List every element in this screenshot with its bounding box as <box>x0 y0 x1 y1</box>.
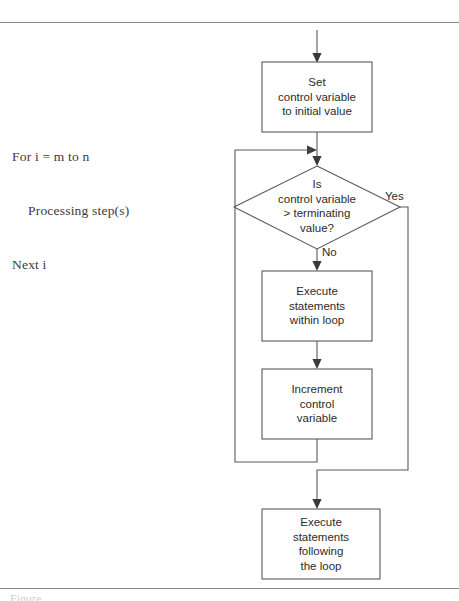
edge-decision-no <box>312 249 321 271</box>
node-execute-within-shape <box>262 271 372 341</box>
edge-start-to-set-control <box>312 30 321 63</box>
flowchart-figure: For i = m to n Processing step(s) Next i <box>0 0 459 601</box>
edge-label-yes: Yes <box>385 190 404 202</box>
bottom-rule <box>0 588 459 589</box>
clipped-caption: Figure <box>10 593 310 601</box>
node-execute-following-shape <box>262 509 380 579</box>
edge-label-no: No <box>322 246 337 258</box>
edge-execute-within-to-increment <box>312 341 321 369</box>
node-increment-shape <box>262 369 372 439</box>
node-set-control-shape <box>262 62 372 132</box>
flowchart-canvas <box>0 0 459 601</box>
node-decision-shape <box>234 166 400 249</box>
